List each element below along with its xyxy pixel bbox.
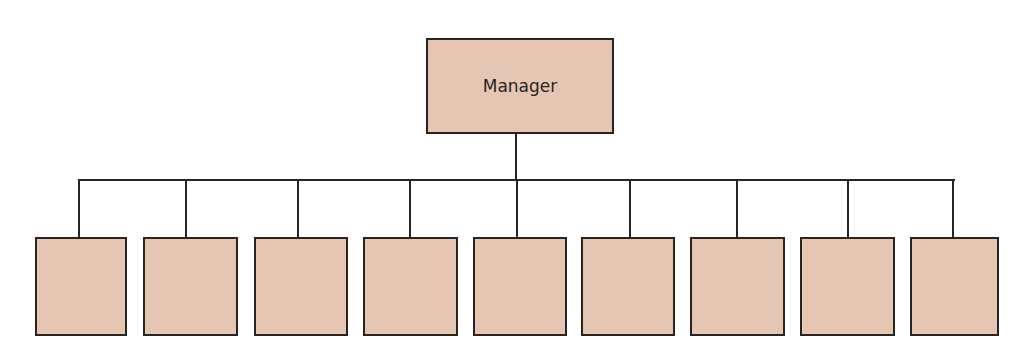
subordinate-connector: [409, 180, 411, 238]
subordinate-connector: [516, 180, 518, 238]
subordinate-box: [690, 237, 785, 336]
manager-box: Manager: [426, 38, 614, 134]
subordinate-box: [910, 237, 999, 336]
subordinate-connector: [78, 180, 80, 238]
manager-connector: [515, 133, 517, 181]
subordinate-connector: [297, 180, 299, 238]
subordinate-box: [473, 237, 567, 336]
subordinate-box: [800, 237, 895, 336]
subordinate-box: [35, 237, 127, 336]
subordinate-box: [254, 237, 348, 336]
subordinate-box: [363, 237, 458, 336]
subordinate-connector: [847, 180, 849, 238]
subordinate-connector: [185, 180, 187, 238]
subordinate-box: [143, 237, 238, 336]
subordinate-connector: [952, 180, 954, 238]
manager-label: Manager: [483, 76, 558, 96]
subordinate-connector: [629, 180, 631, 238]
subordinate-connector: [736, 180, 738, 238]
subordinate-box: [581, 237, 675, 336]
